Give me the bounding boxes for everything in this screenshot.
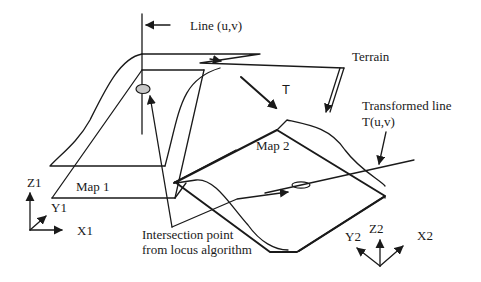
transform-arrow xyxy=(241,77,276,108)
label-axis-y2: Y2 xyxy=(345,229,361,244)
diagram-canvas: Line (u,v) Terrain T Transformed line T(… xyxy=(0,0,481,282)
label-intersection-1: Intersection point xyxy=(142,227,234,242)
label-intersection-2: from locus algorithm xyxy=(142,242,252,257)
transformed-line-pointer-arrow xyxy=(379,132,386,164)
label-map2: Map 2 xyxy=(256,138,290,153)
axes2-icon xyxy=(357,240,403,266)
label-axis-x2: X2 xyxy=(417,228,433,243)
line-uv xyxy=(136,14,150,134)
label-terrain: Terrain xyxy=(352,49,390,64)
label-axis-z2: Z2 xyxy=(369,221,383,236)
label-line-uv: Line (u,v) xyxy=(190,18,242,33)
label-map1: Map 1 xyxy=(76,179,110,194)
label-axis-z1: Z1 xyxy=(27,175,41,190)
intersection-marker-map1 xyxy=(136,85,150,94)
transformed-line xyxy=(265,160,414,193)
label-transformed-line-1: Transformed line xyxy=(362,98,452,113)
label-axis-y1: Y1 xyxy=(51,200,67,215)
label-transformed-line-2: T(u,v) xyxy=(362,114,395,129)
label-transform-t: T xyxy=(282,82,290,97)
terrain-pointer-arrow-right xyxy=(326,68,340,112)
terrain-surface xyxy=(50,54,344,250)
label-axis-x1: X1 xyxy=(77,223,93,238)
intersection-pointer-arrows xyxy=(150,96,288,227)
